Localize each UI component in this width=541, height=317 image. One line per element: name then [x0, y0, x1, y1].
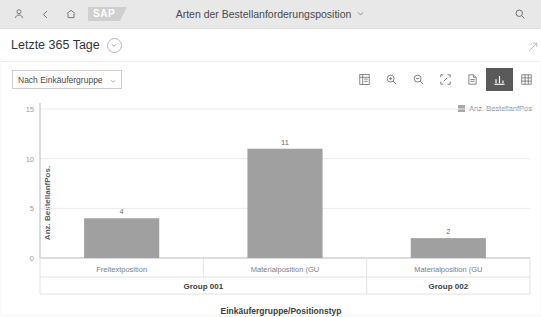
- app-root: SAP Arten der Bestellanforderungspositio…: [0, 0, 541, 317]
- bar[interactable]: [247, 149, 322, 258]
- chevron-down-icon: [109, 71, 117, 89]
- chart-toolbar: Nach Einkäufergruppe: [2, 68, 540, 96]
- x-category-label: Freitextposition: [96, 265, 147, 274]
- chart-card: Nach Einkäufergruppe: [2, 61, 540, 314]
- y-tick-label: 15: [26, 105, 34, 114]
- bar[interactable]: [84, 218, 159, 258]
- back-chevron-icon[interactable]: [32, 2, 58, 26]
- page-header-title: Letzte 365 Tage: [11, 38, 100, 52]
- y-tick-label: 10: [26, 155, 34, 164]
- chart-plot-area: Anz. BestellanfPos. Einkäufergruppe/Posi…: [2, 95, 540, 314]
- fullscreen-icon[interactable]: [432, 68, 459, 91]
- table-grid-icon[interactable]: [513, 68, 540, 91]
- y-tick-label: 0: [30, 254, 34, 263]
- bar[interactable]: [411, 238, 486, 258]
- x-group-label: Group 001: [184, 282, 224, 291]
- zoom-out-icon[interactable]: [405, 68, 432, 91]
- export-icon[interactable]: [459, 68, 486, 91]
- bar-value-label: 11: [281, 138, 289, 147]
- variant-chevron-down-icon[interactable]: [107, 38, 122, 53]
- bar-value-label: 2: [446, 227, 450, 236]
- bar-chart-svg[interactable]: 0510154Freitextposition11Materialpositio…: [2, 95, 540, 314]
- dimension-select[interactable]: Nach Einkäufergruppe: [12, 70, 122, 89]
- details-icon[interactable]: [351, 68, 378, 91]
- page-header: Letzte 365 Tage: [0, 29, 541, 61]
- shell-bar-right-actions: [507, 2, 533, 26]
- search-icon[interactable]: [507, 2, 533, 26]
- zoom-in-icon[interactable]: [378, 68, 405, 91]
- chart-toolbar-buttons: [351, 68, 540, 91]
- bar-chart-icon[interactable]: [486, 68, 513, 91]
- x-group-label: Group 002: [429, 282, 469, 291]
- x-category-label: Materialposition (GU: [251, 265, 319, 274]
- shell-bar: SAP Arten der Bestellanforderungspositio…: [0, 0, 541, 29]
- page-header-title-group: Letzte 365 Tage: [11, 38, 122, 53]
- shell-bar-left-actions: SAP: [0, 2, 120, 26]
- y-tick-label: 5: [30, 204, 34, 213]
- sap-logo[interactable]: SAP: [88, 7, 120, 21]
- user-icon[interactable]: [6, 2, 32, 26]
- dimension-select-value: Nach Einkäufergruppe: [18, 75, 103, 85]
- home-icon[interactable]: [58, 2, 84, 26]
- x-category-label: Materialposition (GU: [414, 265, 482, 274]
- page-header-corner-icon[interactable]: [528, 38, 538, 56]
- page-title: Arten der Bestellanforderungsposition: [176, 8, 352, 20]
- chevron-down-icon[interactable]: [356, 8, 365, 20]
- bar-value-label: 4: [120, 207, 124, 216]
